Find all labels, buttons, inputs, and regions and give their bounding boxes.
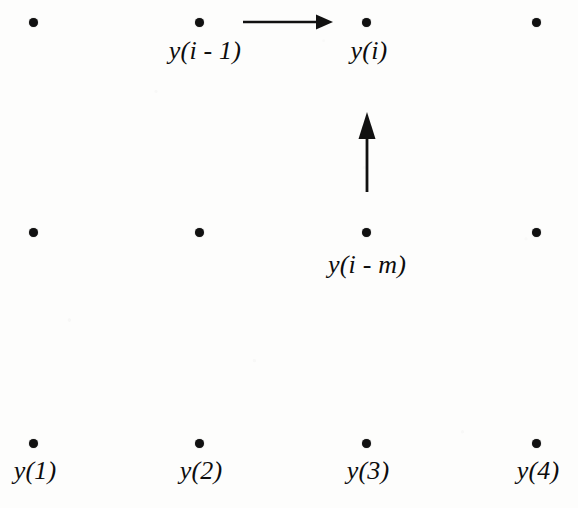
- arrow-layer: [0, 0, 578, 508]
- vertical-arrow-icon: [359, 112, 376, 192]
- node-label-y-2: y(2): [180, 458, 223, 484]
- node-dot-r3c2: [195, 439, 204, 448]
- node-label-y-i-minus-m: y(i - m): [328, 252, 406, 278]
- node-dot-r1c3: [362, 18, 371, 27]
- node-dot-r3c1: [29, 439, 38, 448]
- lattice-figure: y(i - 1) y(i) y(i - m) y(1) y(2) y(3) y(…: [0, 0, 578, 508]
- node-dot-r2c3: [362, 228, 371, 237]
- node-dot-r1c1: [29, 18, 38, 27]
- node-dot-r2c2: [195, 228, 204, 237]
- node-dot-r2c4: [532, 228, 541, 237]
- node-dot-r3c3: [362, 439, 371, 448]
- node-label-y-1: y(1): [14, 458, 57, 484]
- node-dot-r3c4: [532, 439, 541, 448]
- node-dot-r2c1: [29, 228, 38, 237]
- paper-grain-texture: [0, 0, 578, 508]
- horizontal-arrow-icon: [243, 15, 333, 30]
- node-label-y-3: y(3): [347, 458, 390, 484]
- node-label-y-4: y(4): [517, 458, 560, 484]
- node-label-y-i-minus-1: y(i - 1): [169, 38, 241, 64]
- node-dot-r1c4: [532, 18, 541, 27]
- node-label-y-i: y(i): [351, 38, 388, 64]
- node-dot-r1c2: [195, 18, 204, 27]
